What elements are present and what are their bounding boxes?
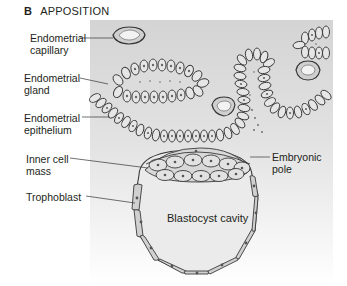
label-line: capillary [30,44,86,56]
label-line: pole [272,163,322,175]
label-line: Trophoblast [26,191,81,203]
label-endometrial-gland: Endometrial gland [24,72,80,96]
label-trophoblast: Trophoblast [26,191,81,203]
label-embryonic-pole: Embryonic pole [272,151,322,175]
label-endometrial-epithelium: Endometrial epithelium [24,112,80,136]
endometrial-capillary-left [113,27,145,44]
label-line: Embryonic [272,151,322,163]
label-line: Endometrial [30,32,86,44]
label-line: Endometrial [24,72,80,84]
label-line: Endometrial [24,112,80,124]
label-line: epithelium [24,124,80,136]
label-line: gland [24,84,80,96]
label-line: mass [26,165,69,177]
label-inner-cell-mass: Inner cell mass [26,153,69,177]
label-blastocyst-cavity: Blastocyst cavity [167,212,248,224]
endometrial-capillary-right [296,61,320,80]
label-endometrial-capillary: Endometrial capillary [30,32,86,56]
label-line: Inner cell [26,153,69,165]
